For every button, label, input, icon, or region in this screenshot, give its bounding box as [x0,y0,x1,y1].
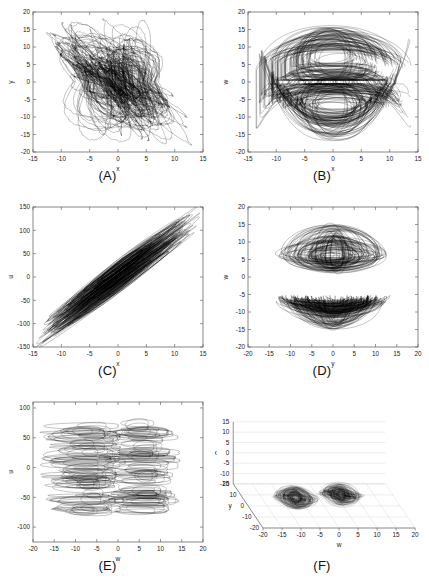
y-axis-label: u [7,275,14,279]
x-tick-label: 15 [222,418,230,425]
x-tick-label: 5 [360,155,364,162]
panel-f-letter: (F) [215,558,429,573]
panel-e: -20-15-10-505101520-100-50050100wu (E) [0,390,215,587]
y-tick-label: -15 [21,131,31,138]
w-tick-label: 15 [393,531,401,538]
x-tick-label: -10 [71,545,81,552]
y-tick-label: 50 [23,250,31,257]
x-tick-label: 15 [178,545,186,552]
x-tick-label: -10 [220,470,230,477]
y-tick-label: 20 [238,203,246,210]
panel-f-plot: -20-15-10-505101520w-20-1001020y-15-10-5… [215,390,429,585]
plot-frame [248,207,418,347]
w-tick-label: 5 [356,531,360,538]
panel-d: -20-15-10-505101520-20-15-10-505101520yw… [215,195,429,390]
y-tick-label: 0 [241,78,245,85]
x-tick-label: 10 [171,155,179,162]
y-tick-label: -20 [236,148,246,155]
y-tick-label: 15 [238,26,246,33]
x-tick-label: -5 [309,350,315,357]
y-tick-label: -15 [236,326,246,333]
x-tick-label: 0 [116,350,120,357]
x-tick-label: 15 [199,155,207,162]
x-tick-label: 5 [226,439,230,446]
panel-d-letter: (D) [215,363,429,378]
w-tick-label: 20 [412,531,420,538]
y-tick-label: 5 [26,61,30,68]
y-tick-label: 0 [26,273,30,280]
panel-a-letter: (A) [0,168,215,183]
y-axis-label: y [228,502,232,510]
w-tick-label: -5 [317,531,323,538]
x-tick-label: -15 [243,155,253,162]
trajectory-group [256,26,411,141]
x-tick-label: 5 [145,350,149,357]
y-tick-label: 50 [23,434,31,441]
x-tick-label: 0 [226,449,230,456]
x-tick-label: 15 [199,350,207,357]
y-tick-label: -100 [17,523,30,530]
x-tick-label: 15 [414,155,422,162]
plot-frame [33,402,203,542]
trajectory-group [275,223,389,330]
panel-c-plot: -15-10-5051015-150-100-50050100150xu [0,195,215,390]
x-tick-label: -15 [265,350,275,357]
y-tick-label: 10 [23,43,31,50]
w-tick-label: -20 [258,531,268,538]
y-tick-label: 10 [238,238,246,245]
x-tick-label: 20 [199,545,207,552]
x-tick-label: -15 [28,155,38,162]
x-tick-label: 0 [331,350,335,357]
x-tick-label: -15 [50,545,60,552]
y-tick-label: 0 [241,273,245,280]
panel-f: -20-15-10-505101520w-20-1001020y-15-10-5… [215,390,429,587]
y-tick-label: -20 [21,148,31,155]
panel-a: -15-10-5051015-20-15-10-505101520xy (A) [0,0,215,195]
x-tick-label: 20 [414,350,422,357]
floor-grid [233,422,415,528]
x-tick-label: -5 [224,459,230,466]
panel-b-letter: (B) [215,168,429,183]
y-tick-label: 15 [23,26,31,33]
y-tick-label: 10 [230,491,238,498]
x-tick-label: -10 [286,350,296,357]
x-tick-label: -20 [28,545,38,552]
x-tick-label: 5 [137,545,141,552]
figure-panel-grid: -15-10-5051015-20-15-10-505101520xy (A) … [0,0,429,587]
x-tick-label: 10 [171,350,179,357]
y-axis-label: y [7,80,15,84]
y-tick-label: -5 [239,291,245,298]
panel-e-plot: -20-15-10-505101520-100-50050100wu [0,390,215,585]
panel-c: -15-10-5051015-150-100-50050100150xu (C) [0,195,215,390]
x-tick-label: 5 [352,350,356,357]
w-tick-label: 0 [337,531,341,538]
x-tick-label: -5 [94,545,100,552]
panel-c-letter: (C) [0,363,215,378]
x-tick-label: 5 [145,155,149,162]
y-axis-label: w [222,79,229,85]
x-tick-label: -15 [28,350,38,357]
y-tick-label: -50 [21,297,31,304]
x-tick-label: -10 [272,155,282,162]
x-tick-label: 10 [222,428,230,435]
y-tick-label: -150 [17,343,30,350]
x-tick-label: -5 [87,155,93,162]
x-tick-label: -10 [57,155,67,162]
y-tick-label: 150 [19,203,30,210]
y-tick-label: -10 [242,513,252,520]
figure-caption-partial [0,578,429,587]
x-tick-label: 0 [331,155,335,162]
y-tick-label: -100 [17,320,30,327]
y-tick-label: 20 [238,8,246,15]
panel-e-letter: (E) [0,558,215,573]
x-tick-label: 0 [116,545,120,552]
trajectory-group [36,204,200,347]
w-tick-label: -10 [296,531,306,538]
panel-b: -15-10-5051015-20-15-10-505101520xw (B) [215,0,429,195]
x-tick-label: -10 [57,350,67,357]
x-tick-label: -20 [243,350,253,357]
panel-a-plot: -15-10-5051015-20-15-10-505101520xy [0,0,215,195]
x-tick-label: -5 [87,350,93,357]
x-axis-label: x [215,449,218,456]
y-axis-label: u [7,470,14,474]
